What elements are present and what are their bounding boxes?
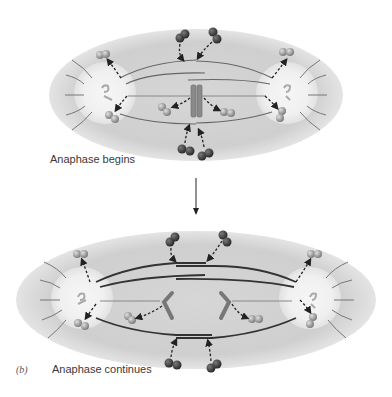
stage-label-anaphase-continues: Anaphase continues	[52, 363, 152, 375]
stage-label-anaphase-begins: Anaphase begins	[50, 153, 135, 165]
anaphase-diagram: Anaphase begins (b) Anaphase continues	[0, 0, 392, 397]
cell-anaphase-begins	[49, 28, 343, 162]
transition-arrow	[193, 178, 199, 215]
centrosome-right	[256, 62, 318, 124]
centrosome-right	[279, 267, 341, 329]
centrosome-left	[74, 62, 136, 124]
panel-letter: (b)	[16, 364, 28, 375]
centrosome-left	[51, 267, 113, 329]
cell-anaphase-continues	[16, 231, 376, 373]
